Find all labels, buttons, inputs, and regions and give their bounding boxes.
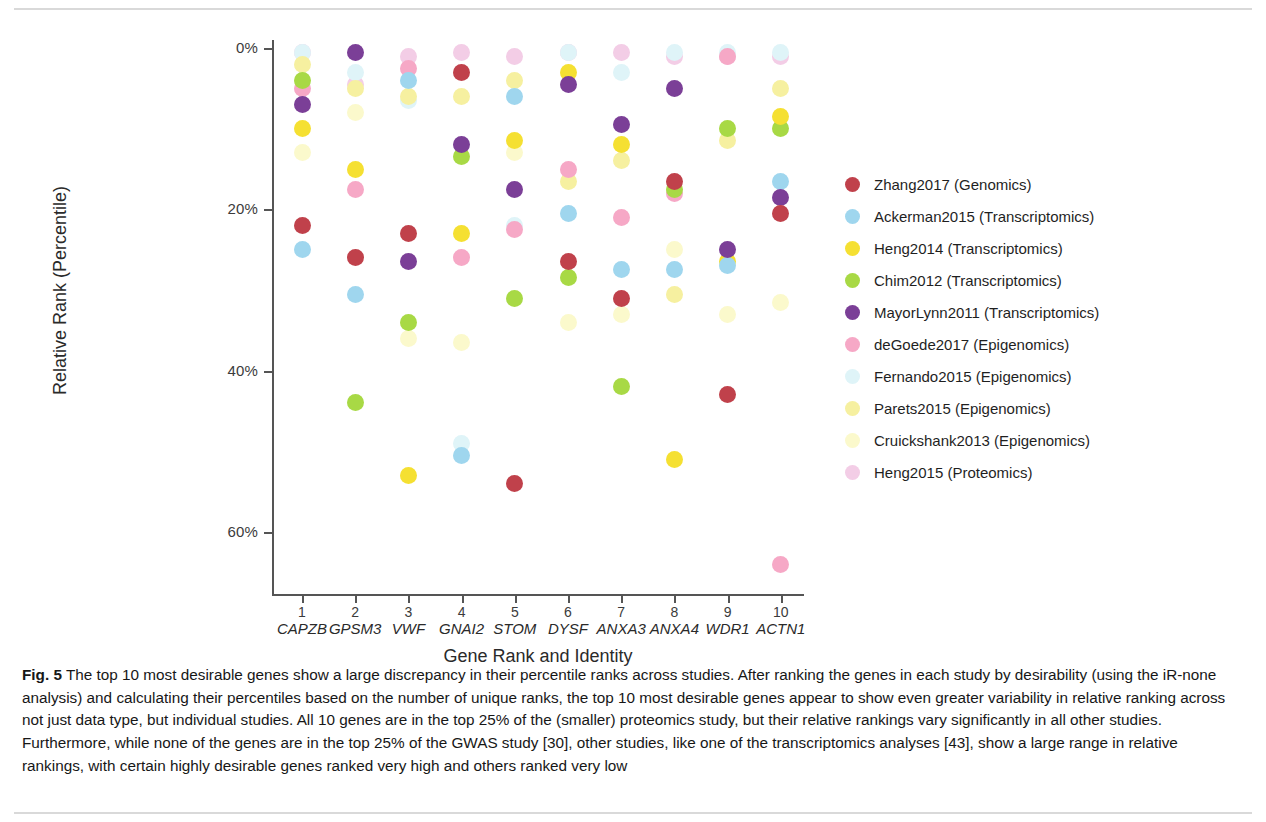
data-point: [506, 72, 523, 89]
legend-item: Fernando2015 (Epigenomics): [845, 360, 1245, 392]
data-point: [613, 44, 630, 61]
data-point: [719, 48, 736, 65]
data-point: [347, 181, 364, 198]
data-point: [347, 394, 364, 411]
legend-item-label: Parets2015 (Epigenomics): [874, 400, 1051, 417]
data-point: [347, 80, 364, 97]
legend-item-label: Heng2014 (Transcriptomics): [874, 240, 1063, 257]
legend-item: Cruickshank2013 (Epigenomics): [845, 424, 1245, 456]
y-tick-label-text: 20%: [198, 200, 258, 217]
data-point: [560, 161, 577, 178]
legend-item-label: Zhang2017 (Genomics): [874, 176, 1032, 193]
x-tick-mark: [515, 596, 517, 603]
data-point: [719, 257, 736, 274]
data-point: [294, 144, 311, 161]
data-point: [294, 96, 311, 113]
data-point: [294, 120, 311, 137]
legend-swatch-icon: [845, 305, 860, 320]
data-point: [294, 241, 311, 258]
data-point: [453, 64, 470, 81]
x-tick-mark: [621, 596, 623, 603]
data-point: [666, 173, 683, 190]
data-point: [719, 306, 736, 323]
data-point: [400, 330, 417, 347]
data-point: [613, 116, 630, 133]
data-point: [719, 386, 736, 403]
data-point: [772, 189, 789, 206]
x-tick-mark: [781, 596, 783, 603]
data-point: [772, 44, 789, 61]
y-tick-label: 60%: [190, 523, 258, 539]
y-axis-title: Relative Rank (Percentile): [50, 126, 71, 456]
data-point: [453, 88, 470, 105]
data-point: [400, 314, 417, 331]
data-point: [400, 225, 417, 242]
figure-caption: Fig. 5 The top 10 most desirable genes s…: [22, 664, 1244, 777]
legend-swatch-icon: [845, 369, 860, 384]
data-point: [772, 294, 789, 311]
data-point: [347, 161, 364, 178]
data-point: [400, 72, 417, 89]
data-point: [560, 314, 577, 331]
data-point: [400, 253, 417, 270]
data-point: [613, 136, 630, 153]
data-point: [506, 181, 523, 198]
data-point: [613, 152, 630, 169]
data-point: [613, 290, 630, 307]
data-point: [453, 334, 470, 351]
legend-item-label: Fernando2015 (Epigenomics): [874, 368, 1072, 385]
legend-item: Ackerman2015 (Transcriptomics): [845, 200, 1245, 232]
legend-item-label: Heng2015 (Proteomics): [874, 464, 1032, 481]
data-point: [347, 104, 364, 121]
data-point: [613, 378, 630, 395]
legend-swatch-icon: [845, 337, 860, 352]
legend-item: Zhang2017 (Genomics): [845, 168, 1245, 200]
legend-swatch-icon: [845, 465, 860, 480]
data-point: [294, 72, 311, 89]
data-point: [666, 44, 683, 61]
data-point: [506, 48, 523, 65]
data-point: [772, 556, 789, 573]
data-point: [294, 56, 311, 73]
data-point: [560, 269, 577, 286]
data-point: [560, 253, 577, 270]
data-point: [613, 306, 630, 323]
x-tick-label-actn1: 10ACTN1: [741, 604, 821, 637]
x-tick-mark: [408, 596, 410, 603]
y-tick-label: 0%: [190, 39, 258, 55]
data-point: [347, 286, 364, 303]
x-tick-mark: [728, 596, 730, 603]
legend-item-label: Cruickshank2013 (Epigenomics): [874, 432, 1090, 449]
y-tick-mark: [264, 371, 272, 373]
data-point: [666, 261, 683, 278]
x-tick-mark: [462, 596, 464, 603]
y-tick-mark: [264, 48, 272, 50]
y-tick-label: 20%: [190, 200, 258, 216]
x-tick-mark: [674, 596, 676, 603]
data-point: [347, 249, 364, 266]
x-tick-mark: [355, 596, 357, 603]
data-point: [506, 88, 523, 105]
legend-item: MayorLynn2011 (Transcriptomics): [845, 296, 1245, 328]
figure-label: Fig. 5: [22, 666, 62, 683]
y-tick-label-text: 0%: [198, 39, 258, 56]
data-point: [613, 261, 630, 278]
data-point: [506, 475, 523, 492]
data-point: [666, 80, 683, 97]
data-point: [347, 64, 364, 81]
x-tick-mark: [302, 596, 304, 603]
x-axis-line: [272, 594, 804, 596]
y-tick-mark: [264, 209, 272, 211]
legend-swatch-icon: [845, 241, 860, 256]
caption-text: The top 10 most desirable genes show a l…: [22, 666, 1225, 774]
data-point: [560, 76, 577, 93]
y-tick-label: 40%: [190, 362, 258, 378]
x-tick-rank: 10: [741, 604, 821, 620]
legend-swatch-icon: [845, 433, 860, 448]
y-tick-label-text: 40%: [198, 362, 258, 379]
x-tick-gene-name: ACTN1: [741, 620, 821, 637]
data-point: [400, 88, 417, 105]
data-point: [560, 44, 577, 61]
data-point: [506, 290, 523, 307]
x-tick-mark: [568, 596, 570, 603]
